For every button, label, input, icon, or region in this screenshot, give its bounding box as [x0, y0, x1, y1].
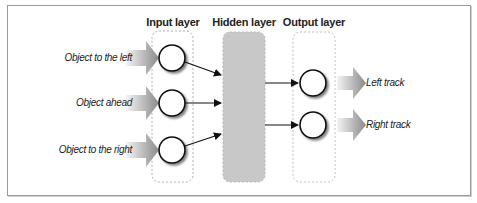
output-node — [300, 70, 326, 96]
input-node — [159, 137, 185, 163]
output-label-right-track: Right track — [366, 119, 412, 130]
input-layer-label: Input layer — [146, 16, 200, 28]
input-label-left: Object to the left — [65, 52, 134, 63]
output-label-left-track: Left track — [366, 77, 405, 88]
hidden-layer-box — [223, 32, 265, 182]
output-layer-box — [293, 32, 335, 182]
input-node — [159, 45, 185, 71]
input-node — [159, 90, 185, 116]
input-label-right: Object to the right — [59, 144, 134, 155]
neural-network-diagram: Input layer Hidden layer Output layer Ob… — [0, 0, 477, 203]
output-node — [300, 112, 326, 138]
output-arrow-icon — [337, 67, 366, 99]
hidden-layer-label: Hidden layer — [212, 16, 277, 28]
connection-arrow-icon — [185, 134, 221, 146]
connection-arrow-icon — [185, 62, 221, 75]
output-layer-label: Output layer — [283, 16, 346, 28]
output-arrow-icon — [337, 109, 366, 141]
input-label-ahead: Object ahead — [76, 97, 133, 108]
